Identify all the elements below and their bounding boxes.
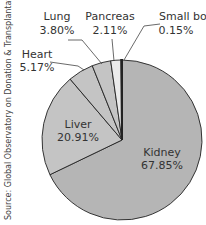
leader-small-bowel [124, 24, 160, 60]
label-kidney-pct: 67.85% [141, 159, 183, 172]
pie-chart: Source: Global Observatory on Donation &… [0, 0, 206, 225]
leader-heart [50, 62, 84, 70]
leader-lung [68, 40, 102, 64]
label-lung-name: Lung [44, 10, 71, 23]
label-liver-name: Liver [65, 118, 92, 131]
label-small-bowel-name: Small bowel [159, 10, 206, 23]
label-liver-pct: 20.91% [57, 131, 99, 144]
label-heart-name: Heart [22, 48, 53, 61]
source-note: Source: Global Observatory on Donation &… [4, 0, 13, 220]
label-pancreas-pct: 2.11% [93, 24, 128, 37]
label-lung-pct: 3.80% [40, 24, 75, 37]
leader-pancreas [112, 39, 114, 61]
label-heart-pct: 5.17% [20, 61, 55, 74]
slice-small-bowel [121, 60, 122, 140]
label-small-bowel-pct: 0.15% [159, 24, 194, 37]
label-pancreas-name: Pancreas [85, 10, 135, 23]
label-kidney-name: Kidney [143, 146, 181, 159]
